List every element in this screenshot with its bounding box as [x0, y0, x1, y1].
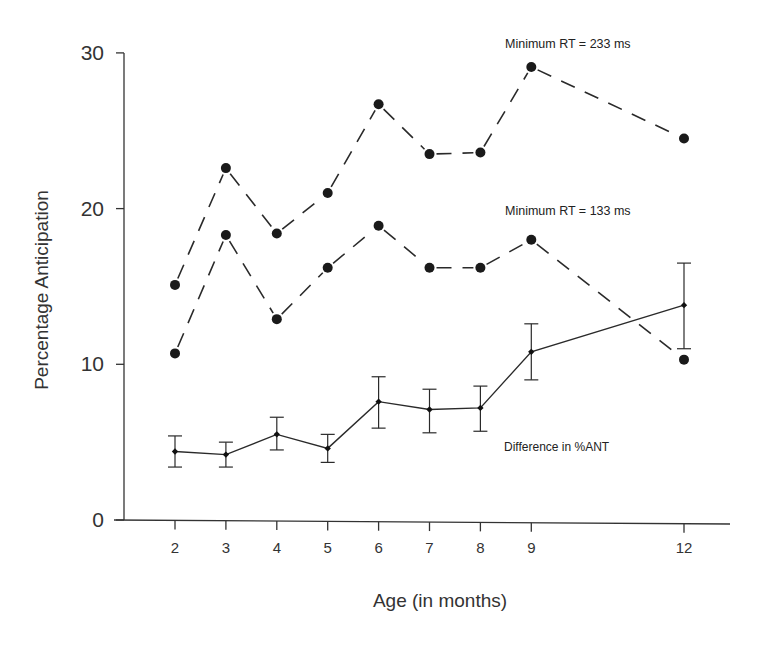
- x-tick-label: 2: [171, 539, 179, 556]
- data-point: [323, 263, 333, 273]
- x-tick-label: 3: [222, 539, 230, 556]
- data-point: [272, 314, 282, 324]
- x-tick-label: 12: [676, 539, 693, 556]
- dashed-segment: [538, 70, 678, 136]
- dashed-segment: [537, 244, 679, 355]
- x-tick-label: 8: [476, 539, 484, 556]
- series-min-rt-233: [170, 62, 689, 290]
- dashed-segment: [230, 241, 274, 313]
- y-tick-label: 20: [81, 197, 104, 221]
- diamond-marker: [172, 448, 178, 454]
- axes: [114, 53, 730, 533]
- data-point: [475, 148, 485, 158]
- data-point: [374, 221, 384, 231]
- x-axis-label: Age (in months): [373, 590, 507, 612]
- dashed-segment: [487, 243, 526, 264]
- data-point: [272, 229, 282, 239]
- dashed-segment: [333, 230, 373, 263]
- data-point: [221, 230, 231, 240]
- annotation-min-rt-133: Minimum RT = 133 ms: [505, 204, 631, 218]
- dashed-segment: [436, 153, 473, 154]
- diamond-marker: [426, 406, 432, 412]
- data-point: [679, 355, 689, 365]
- data-point: [526, 62, 536, 72]
- x-tick-label: 6: [374, 539, 382, 556]
- data-point: [425, 263, 435, 273]
- diamond-marker: [274, 431, 280, 437]
- y-tick-label: 10: [81, 352, 104, 376]
- data-point: [475, 263, 485, 273]
- dashed-segment: [230, 174, 272, 228]
- data-point: [374, 99, 384, 109]
- dashed-segment: [282, 197, 322, 229]
- data-point: [221, 163, 231, 173]
- annotation-difference: Difference in %ANT: [504, 440, 609, 454]
- series-min-rt-133: [170, 221, 689, 365]
- diamond-marker: [223, 451, 229, 457]
- x-axis-line: [114, 520, 730, 524]
- data-point: [170, 280, 180, 290]
- series-difference: [168, 263, 691, 467]
- dashed-segment: [178, 241, 223, 346]
- y-tick-label: 0: [92, 508, 104, 532]
- data-point: [170, 348, 180, 358]
- x-tick-label: 7: [425, 539, 433, 556]
- dashed-segment: [384, 109, 425, 149]
- diamond-marker: [681, 302, 687, 308]
- x-tick-label: 5: [324, 539, 332, 556]
- data-point: [679, 134, 689, 144]
- data-point: [526, 235, 536, 245]
- x-tick-label: 9: [527, 539, 535, 556]
- y-axis-label: Percentage Anticipation: [31, 190, 53, 390]
- data-point: [323, 188, 333, 198]
- dashed-segment: [178, 175, 223, 279]
- y-tick-label: 30: [81, 41, 104, 65]
- dashed-segment: [384, 230, 424, 263]
- annotation-min-rt-233: Minimum RT = 233 ms: [505, 37, 631, 51]
- x-tick-label: 4: [273, 539, 281, 556]
- dashed-segment: [484, 73, 528, 147]
- dashed-segment: [331, 110, 375, 187]
- dashed-segment: [282, 273, 323, 314]
- data-point: [425, 149, 435, 159]
